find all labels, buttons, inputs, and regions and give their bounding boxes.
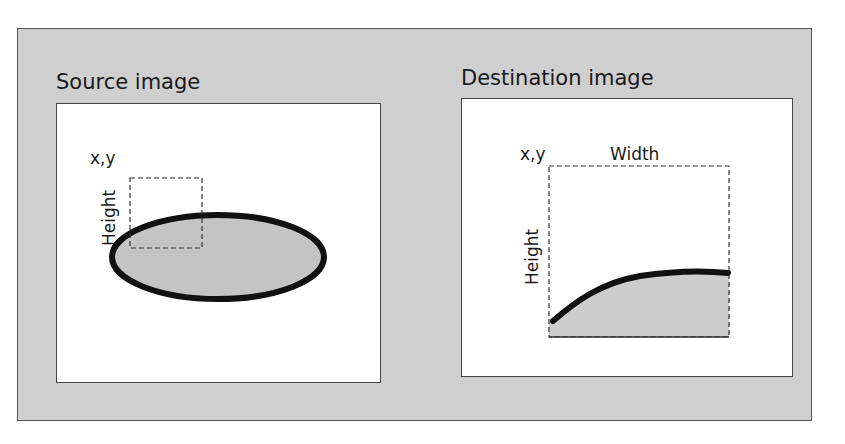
diagram-canvas: x,y Height x,y Width Height bbox=[0, 0, 845, 444]
destination-height-label: Height bbox=[522, 228, 542, 285]
source-height-label: Height bbox=[99, 189, 119, 246]
destination-width-label: Width bbox=[610, 144, 659, 164]
source-origin-label: x,y bbox=[90, 148, 116, 168]
destination-origin-label: x,y bbox=[520, 144, 546, 164]
source-ellipse-shape bbox=[112, 215, 324, 299]
